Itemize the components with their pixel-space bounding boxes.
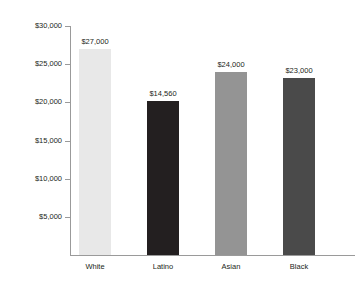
x-axis-category-label-asian: Asian bbox=[201, 262, 261, 271]
y-axis-tick-label: $5,000 bbox=[4, 213, 62, 221]
y-axis-tick-label: $25,000 bbox=[4, 60, 62, 68]
bar-black bbox=[283, 78, 315, 255]
y-axis-tick-mark bbox=[65, 141, 70, 142]
bar-white bbox=[79, 49, 111, 255]
y-axis-tick-label: $15,000 bbox=[4, 137, 62, 145]
x-axis-category-label-black: Black bbox=[269, 262, 329, 271]
bar-value-label-asian: $24,000 bbox=[201, 60, 261, 69]
y-axis-tick-mark bbox=[65, 26, 70, 27]
x-axis-line bbox=[70, 255, 355, 256]
plot-area: $30,000$25,000$20,000$15,000$10,000$5,00… bbox=[0, 0, 362, 282]
bar-value-label-black: $23,000 bbox=[269, 66, 329, 75]
y-axis-line bbox=[70, 26, 71, 256]
bar-chart-figure: $30,000$25,000$20,000$15,000$10,000$5,00… bbox=[0, 0, 362, 282]
bar-latino bbox=[147, 101, 179, 255]
bar-value-label-white: $27,000 bbox=[65, 37, 125, 46]
x-axis-category-label-latino: Latino bbox=[133, 262, 193, 271]
y-axis-tick-mark bbox=[65, 179, 70, 180]
y-axis-tick-label: $20,000 bbox=[4, 98, 62, 106]
bar-value-label-latino: $14,560 bbox=[133, 89, 193, 98]
y-axis-tick-label: $10,000 bbox=[4, 175, 62, 183]
y-axis-tick-mark bbox=[65, 64, 70, 65]
y-axis-tick-mark bbox=[65, 217, 70, 218]
y-axis-tick-mark bbox=[65, 102, 70, 103]
bar-asian bbox=[215, 72, 247, 255]
y-axis-tick-label: $30,000 bbox=[4, 22, 62, 30]
x-axis-category-label-white: White bbox=[65, 262, 125, 271]
